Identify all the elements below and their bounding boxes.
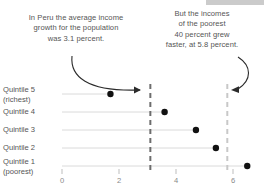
data-point <box>193 127 199 133</box>
x-tick-label: 0 <box>60 176 64 185</box>
arrow-head-right <box>231 86 239 93</box>
data-point <box>213 145 219 151</box>
reference-lines <box>150 84 227 172</box>
arrow-curve-right <box>238 57 249 89</box>
x-tick-label: 2 <box>117 176 121 185</box>
category-label-line: (richest) <box>3 95 61 105</box>
category-label: Quintile 1(poorest) <box>3 157 61 176</box>
lollipop-series <box>62 91 250 169</box>
category-label-line: Quintile 1 <box>3 157 61 167</box>
category-label: Quintile 5(richest) <box>3 85 61 104</box>
category-label-line: Quintile 4 <box>3 107 61 117</box>
data-point <box>107 91 113 97</box>
chart-figure: In Peru the average income growth for th… <box>0 0 264 192</box>
data-point <box>161 109 167 115</box>
category-label: Quintile 4 <box>3 107 61 117</box>
category-label-line: Quintile 3 <box>3 125 61 135</box>
x-tick-label: 6 <box>231 176 235 185</box>
category-label-line: Quintile 5 <box>3 85 61 95</box>
category-label-line: (poorest) <box>3 167 61 177</box>
x-axis-ticks <box>62 169 233 174</box>
category-label: Quintile 3 <box>3 125 61 135</box>
category-label-line: Quintile 2 <box>3 143 61 153</box>
data-point <box>244 163 250 169</box>
x-tick-label: 4 <box>174 176 178 185</box>
category-label: Quintile 2 <box>3 143 61 153</box>
arrow-head-left <box>134 87 141 94</box>
arrow-curve-left <box>72 56 140 90</box>
annotation-arrows <box>72 56 249 93</box>
